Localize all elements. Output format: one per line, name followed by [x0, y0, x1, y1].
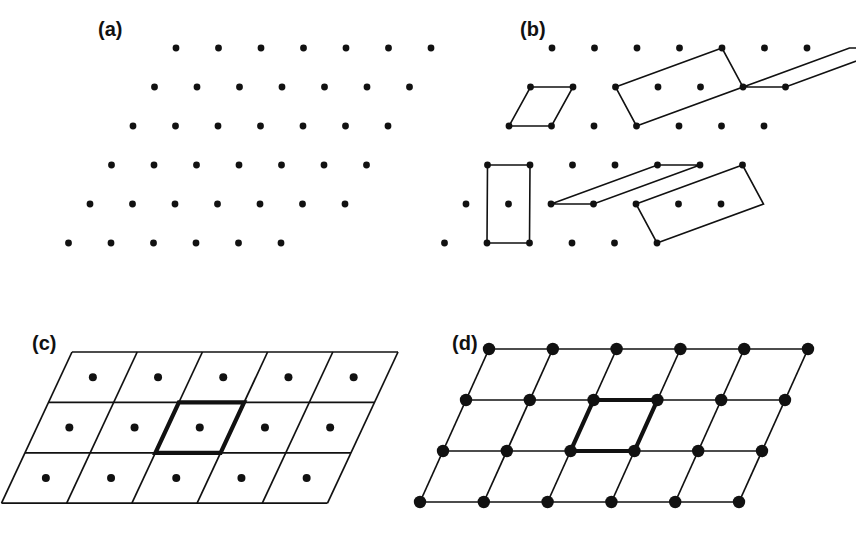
- lattice-dot: [674, 343, 686, 355]
- lattice-dot: [569, 240, 576, 247]
- lattice-dot: [564, 445, 576, 457]
- lattice-dot: [257, 201, 264, 208]
- lattice-dot: [108, 162, 115, 169]
- lattice-dot: [151, 84, 158, 91]
- lattice-dot: [350, 373, 358, 381]
- lattice-dot: [173, 45, 180, 52]
- lattice-dot: [718, 201, 725, 208]
- lattice-dot: [385, 45, 392, 52]
- lattice-dot: [697, 84, 704, 91]
- lattice-dot: [284, 373, 292, 381]
- lattice-dot: [761, 123, 768, 130]
- lattice-dot: [326, 424, 334, 432]
- grid-line-b: [420, 349, 489, 502]
- lattice-dot: [65, 424, 73, 432]
- lattice-dot: [65, 240, 72, 247]
- lattice-dot: [505, 201, 512, 208]
- lattice-dot: [87, 201, 94, 208]
- lattice-dot: [549, 45, 556, 52]
- lattice-dot: [342, 123, 349, 130]
- grid-line-b: [739, 349, 808, 502]
- lattice-dot: [42, 474, 50, 482]
- lattice-dot: [219, 373, 227, 381]
- primitive-cell-2: [616, 48, 744, 126]
- lattice-dot: [610, 343, 622, 355]
- lattice-dot: [107, 474, 115, 482]
- lattice-dot: [89, 373, 97, 381]
- lattice-dot: [676, 123, 683, 130]
- lattice-dot: [343, 45, 350, 52]
- lattice-dot: [215, 123, 222, 130]
- grid-line-b: [2, 352, 73, 503]
- lattice-dot: [150, 240, 157, 247]
- primitive-cell-6: [636, 165, 764, 243]
- lattice-dot: [385, 123, 392, 130]
- lattice-dot: [172, 474, 180, 482]
- lattice-dot: [193, 240, 200, 247]
- lattice-dot: [591, 45, 598, 52]
- lattice-dot: [303, 474, 311, 482]
- lattice-dot: [441, 240, 448, 247]
- lattice-dot: [779, 394, 791, 406]
- lattice-dot: [524, 394, 536, 406]
- lattice-dot: [363, 162, 370, 169]
- lattice-dot: [428, 45, 435, 52]
- panel-c-centre-dots: [42, 373, 358, 482]
- lattice-dot: [108, 240, 115, 247]
- lattice-dot: [151, 162, 158, 169]
- lattice-dot: [587, 394, 599, 406]
- lattice-dot: [278, 240, 285, 247]
- figure-canvas: [0, 0, 856, 541]
- lattice-dot: [214, 201, 221, 208]
- lattice-dot: [463, 201, 470, 208]
- lattice-dot: [172, 201, 179, 208]
- lattice-dot: [342, 201, 349, 208]
- panel-b-unit-cell-outlines: [487, 48, 856, 243]
- lattice-dot: [692, 445, 704, 457]
- lattice-dot: [605, 496, 617, 508]
- lattice-dot: [300, 45, 307, 52]
- lattice-dot: [733, 496, 745, 508]
- lattice-dot: [460, 394, 472, 406]
- lattice-dot: [193, 162, 200, 169]
- highlighted-unit-cell: [571, 400, 658, 451]
- lattice-dot: [655, 84, 662, 91]
- lattice-figure: (a) (b) (c) (d): [0, 0, 856, 541]
- primitive-cell-3: [743, 48, 856, 87]
- lattice-dot: [718, 123, 725, 130]
- grid-line-b: [67, 352, 138, 503]
- grid-line-b: [484, 349, 553, 502]
- lattice-dot: [172, 123, 179, 130]
- lattice-dot: [299, 201, 306, 208]
- lattice-dot: [756, 445, 768, 457]
- lattice-dot: [278, 162, 285, 169]
- lattice-dot: [669, 496, 681, 508]
- primitive-cell-1: [509, 87, 573, 126]
- lattice-dot: [129, 201, 136, 208]
- lattice-dot: [478, 496, 490, 508]
- lattice-dot: [194, 84, 201, 91]
- grid-line-b: [675, 349, 744, 502]
- grid-line-b: [262, 352, 333, 503]
- lattice-dot: [321, 162, 328, 169]
- lattice-dot: [569, 162, 576, 169]
- lattice-dot: [761, 45, 768, 52]
- lattice-dot: [235, 240, 242, 247]
- lattice-dot: [236, 84, 243, 91]
- lattice-dot: [611, 240, 618, 247]
- lattice-dot: [414, 496, 426, 508]
- lattice-dot: [612, 162, 619, 169]
- lattice-dot: [715, 394, 727, 406]
- lattice-dot: [279, 84, 286, 91]
- lattice-dot: [154, 373, 162, 381]
- lattice-dot: [541, 496, 553, 508]
- panel-d-highlighted-cell: [571, 400, 658, 451]
- grid-line-b: [328, 352, 399, 503]
- panel-b-point-lattice: [441, 45, 810, 247]
- lattice-dot: [321, 84, 328, 91]
- panel-d-tiling-grid: [420, 349, 808, 502]
- lattice-dot: [131, 424, 139, 432]
- lattice-dot: [130, 123, 137, 130]
- lattice-dot: [547, 343, 559, 355]
- lattice-dot: [804, 45, 811, 52]
